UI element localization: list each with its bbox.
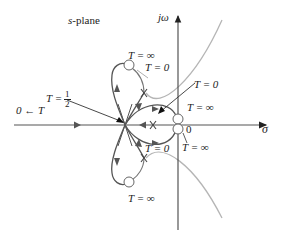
bottom-left-zero-marker: [124, 177, 134, 187]
root-locus-diagram: ss-plane-plane jω σ 0 0 ← T T =12 T = ∞ …: [0, 0, 282, 245]
real-axis-label: σ: [262, 123, 268, 135]
origin-zero-lower-t-inf-label: T = ∞: [182, 142, 209, 153]
arrow-icon: [74, 122, 81, 129]
arrow-icon: [152, 106, 159, 112]
arrow-icon: [158, 106, 165, 114]
root-locus-plot: [0, 0, 282, 245]
imaginary-axis-label: jω: [158, 12, 169, 23]
bottom-pole-t-zero-label: T = 0: [145, 143, 169, 154]
t-half-label: T =12: [46, 90, 71, 110]
upper-left-locus: [112, 63, 126, 125]
plane-title: ss-plane-plane: [68, 15, 100, 26]
lower-left-locus: [112, 125, 126, 185]
t-to-zero-left-label: 0 ← T: [16, 105, 44, 116]
origin-zero-lower-marker: [173, 124, 183, 134]
arrow-icon: [114, 158, 120, 166]
bottom-zero-t-inf-label: T = ∞: [128, 193, 155, 204]
arrow-icon: [114, 84, 120, 92]
top-pole-t-zero-label: T = 0: [145, 62, 169, 73]
top-left-zero-marker: [124, 60, 134, 70]
origin-label: 0: [186, 124, 192, 135]
origin-zero-upper-marker: [173, 114, 183, 124]
top-pole-to-zero: [132, 68, 144, 93]
t-half-pointer: [67, 100, 123, 122]
real-pole-t-zero-label: T = 0: [194, 79, 218, 90]
arrow-icon: [139, 122, 146, 129]
top-zero-t-inf-label: T = ∞: [128, 50, 155, 61]
lower-asymptote-branch: [146, 152, 222, 218]
origin-zero-t-inf-label: T = ∞: [187, 102, 214, 113]
